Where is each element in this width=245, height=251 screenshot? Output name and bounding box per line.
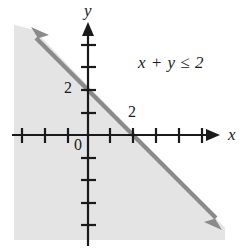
y-axis-label: y bbox=[84, 2, 92, 19]
x-axis-label: x bbox=[228, 126, 236, 143]
inequality-graph-figure: y x 2 2 0 x + y ≤ 2 bbox=[0, 0, 245, 251]
x-axis-tick-label-2: 2 bbox=[128, 104, 136, 120]
y-axis-tick-label-2: 2 bbox=[64, 80, 72, 96]
x-axis-arrowhead bbox=[206, 129, 220, 141]
inequality-annotation: x + y ≤ 2 bbox=[138, 54, 204, 71]
y-axis-arrowhead bbox=[82, 22, 94, 36]
coordinate-plane-svg bbox=[0, 0, 245, 251]
origin-label: 0 bbox=[74, 137, 82, 153]
